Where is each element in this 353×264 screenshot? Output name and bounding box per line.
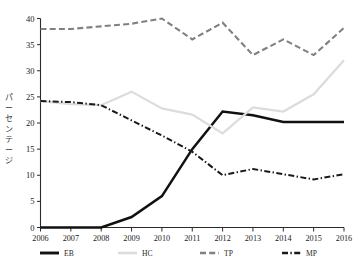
x-tick-label: 2013 <box>245 234 261 243</box>
y-tick-label: 0 <box>30 223 34 233</box>
x-axis-ticks: 2006200720082009201020112012201320142015… <box>32 228 352 244</box>
series-line-eb <box>41 112 345 228</box>
y-axis-title-char: ジ <box>5 156 13 165</box>
y-axis-title-char: セ <box>5 114 13 123</box>
y-tick-label: 10 <box>26 170 35 180</box>
x-tick-label: 2016 <box>336 234 352 243</box>
x-tick-label: 2014 <box>275 234 291 243</box>
y-tick-label: 25 <box>26 92 35 102</box>
y-tick-label: 30 <box>26 66 35 76</box>
x-tick-label: 2007 <box>63 234 79 243</box>
x-tick-label: 2012 <box>214 234 230 243</box>
legend-label-tp[interactable]: TP <box>224 249 233 258</box>
legend-label-eb[interactable]: EB <box>64 249 74 258</box>
y-tick-label: 15 <box>26 144 35 154</box>
line-chart: パーセンテージ 0510152025303540 200620072008200… <box>0 0 353 264</box>
x-tick-label: 2009 <box>123 234 139 243</box>
series-line-tp <box>41 19 345 56</box>
series-line-mp <box>41 101 345 179</box>
y-axis-ticks: 0510152025303540 <box>26 14 41 233</box>
x-tick-label: 2011 <box>184 234 200 243</box>
chart-legend: EBHCTPMP <box>40 249 317 258</box>
legend-label-hc[interactable]: HC <box>142 249 153 258</box>
x-tick-label: 2008 <box>93 234 109 243</box>
x-tick-label: 2010 <box>154 234 170 243</box>
y-axis-title-char: ー <box>5 146 13 155</box>
y-axis-title: パーセンテージ <box>5 93 13 165</box>
legend-label-mp[interactable]: MP <box>306 249 317 258</box>
data-series-group <box>41 19 345 228</box>
x-tick-label: 2006 <box>32 234 48 243</box>
y-tick-label: 35 <box>26 40 35 50</box>
y-axis-title-char: パ <box>5 93 13 102</box>
y-axis-title-char: ー <box>5 104 13 113</box>
y-tick-label: 5 <box>30 196 34 206</box>
y-axis-title-char: ン <box>5 125 13 134</box>
y-tick-label: 20 <box>26 118 35 128</box>
y-axis-title-char: テ <box>5 135 13 144</box>
chart-container: パーセンテージ 0510152025303540 200620072008200… <box>0 0 353 264</box>
y-tick-label: 40 <box>26 14 35 24</box>
x-tick-label: 2015 <box>305 234 321 243</box>
